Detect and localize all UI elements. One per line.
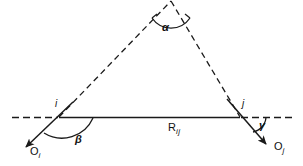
vertex-label-j: j xyxy=(242,99,244,109)
angle-label-gamma: γ xyxy=(259,120,265,131)
construction-line-left xyxy=(59,1,171,117)
ray-label-Oi-symbol: O xyxy=(30,145,39,157)
arc-beta xyxy=(44,118,93,138)
construction-line-right xyxy=(171,1,240,117)
ray-label-Oj: Oj xyxy=(274,141,284,155)
geometry-figure: i j α β γ Oi Oj Rij xyxy=(0,0,303,166)
angle-label-alpha: α xyxy=(162,22,169,33)
ray-label-Oj-subscript: j xyxy=(283,146,285,155)
ray-Oi-line xyxy=(26,102,73,147)
figure-canvas xyxy=(0,0,303,166)
ray-label-Oi: Oi xyxy=(30,146,40,160)
arc-alpha-tick-right xyxy=(185,14,190,18)
ray-label-Oi-subscript: i xyxy=(39,151,41,160)
distance-label-symbol: R xyxy=(168,121,176,133)
distance-label-Rij: Rij xyxy=(168,122,181,136)
vertex-label-i: i xyxy=(55,99,57,109)
ray-label-Oj-symbol: O xyxy=(274,140,283,152)
distance-label-subscript: ij xyxy=(176,127,181,136)
angle-label-beta: β xyxy=(75,134,82,145)
